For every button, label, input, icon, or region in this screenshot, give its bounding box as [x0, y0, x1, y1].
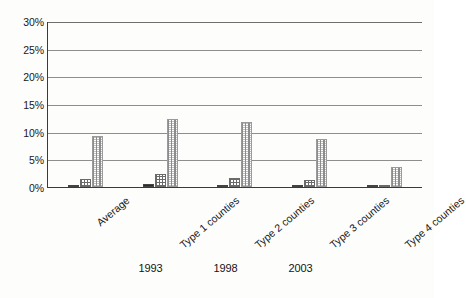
bar-2003-type-3-counties [316, 139, 327, 187]
bar-2003-type-1-counties [167, 119, 178, 187]
x-label-type-2-counties: Type 2 counties [252, 194, 316, 250]
bar-1998-type-2-counties [229, 178, 240, 187]
bar-1998-average [80, 179, 91, 187]
legend-item-1993: 1993 [121, 262, 162, 274]
x-label-average: Average [94, 194, 132, 228]
legend-label-2003: 2003 [289, 262, 313, 274]
checkerboard-swatch-icon [121, 263, 132, 274]
bar-1993-average [68, 185, 79, 187]
y-tick-label: 30% [2, 16, 44, 28]
bar-groups [48, 22, 422, 187]
bar-2003-average [92, 136, 103, 187]
bar-1998-type-1-counties [155, 174, 166, 187]
bar-2003-type-2-counties [241, 122, 252, 187]
bar-group-type-3-counties [272, 22, 347, 187]
x-label-type-1-counties: Type 1 counties [177, 194, 241, 250]
legend-label-1993: 1993 [138, 262, 162, 274]
x-label-type-3-counties: Type 3 counties [327, 194, 391, 250]
plot-area-wrapper [47, 22, 422, 188]
crosshatch-swatch-icon [196, 263, 207, 274]
bar-group-type-4-counties [347, 22, 422, 187]
x-label-type-4-counties: Type 4 counties [402, 194, 466, 250]
y-tick-label: 25% [2, 44, 44, 56]
legend-item-1998: 1998 [196, 262, 237, 274]
x-axis-labels: Average Type 1 counties Type 2 counties … [47, 188, 422, 260]
y-tick-label: 0% [2, 182, 44, 194]
bar-2003-type-4-counties [391, 167, 402, 187]
y-axis-labels: 30% 25% 20% 15% 10% 5% 0% [0, 22, 44, 188]
dotted-swatch-icon [272, 263, 283, 274]
bar-1998-type-3-counties [304, 180, 315, 187]
bar-1993-type-3-counties [292, 185, 303, 187]
y-tick-label: 5% [2, 154, 44, 166]
y-tick-label: 10% [2, 127, 44, 139]
bar-1993-type-4-counties [367, 185, 378, 187]
bar-1998-type-4-counties [379, 185, 390, 187]
bar-group-average [48, 22, 123, 187]
bar-group-type-1-counties [123, 22, 198, 187]
bar-1993-type-1-counties [143, 184, 154, 187]
y-tick-label: 15% [2, 99, 44, 111]
plot-area [47, 22, 422, 188]
legend-item-2003: 2003 [272, 262, 313, 274]
bar-1993-type-2-counties [217, 185, 228, 187]
bar-group-type-2-counties [198, 22, 273, 187]
y-tick-label: 20% [2, 71, 44, 83]
legend-label-1998: 1998 [213, 262, 237, 274]
chart-legend: 1993 1998 2003 [0, 262, 434, 274]
